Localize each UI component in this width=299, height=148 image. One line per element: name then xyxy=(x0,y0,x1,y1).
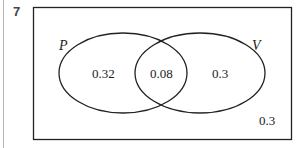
outside-value: 0.3 xyxy=(259,113,275,128)
intersection-value: 0.08 xyxy=(150,66,173,81)
set-v-label: V xyxy=(252,38,262,53)
set-p-label: P xyxy=(58,38,68,53)
v-only-value: 0.3 xyxy=(212,66,228,81)
venn-diagram: P V 0.32 0.08 0.3 0.3 xyxy=(0,0,299,148)
p-only-value: 0.32 xyxy=(92,66,115,81)
